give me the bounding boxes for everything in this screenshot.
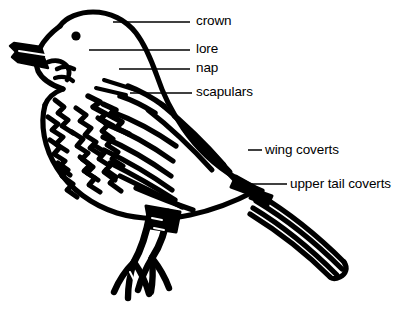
label-lore: lore bbox=[196, 42, 218, 56]
tail-feather-2 bbox=[256, 201, 342, 269]
bird-anatomy-diagram: crown lore nap scapulars wing coverts up… bbox=[0, 0, 405, 316]
chin-stripe bbox=[55, 77, 73, 81]
legs-and-feet-group bbox=[114, 206, 180, 298]
malar-stripe bbox=[57, 67, 74, 69]
tail-feather-rails bbox=[250, 194, 344, 277]
label-wing-coverts: wing coverts bbox=[265, 143, 339, 157]
breast-zigzag-10 bbox=[106, 170, 121, 191]
foot-front bbox=[138, 258, 169, 292]
wing-tip-block bbox=[231, 176, 254, 194]
eye bbox=[71, 31, 80, 40]
label-nap: nap bbox=[196, 61, 218, 75]
label-scapulars: scapulars bbox=[196, 85, 253, 99]
breast-zigzag-7 bbox=[80, 157, 100, 192]
tail-group bbox=[250, 190, 346, 279]
thigh-feather-block bbox=[146, 206, 180, 232]
label-crown: crown bbox=[196, 14, 232, 28]
label-upper-tail-coverts: upper tail coverts bbox=[290, 177, 391, 191]
breast-zigzag-1 bbox=[55, 100, 73, 133]
